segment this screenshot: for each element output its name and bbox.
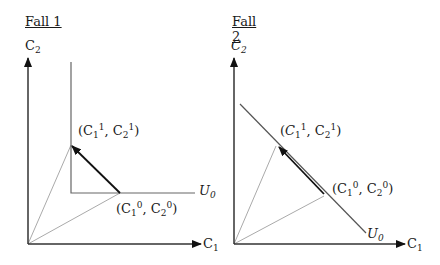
y-axis-label: C2 <box>231 38 247 55</box>
new-point-label: (C11, C21) <box>280 122 341 140</box>
curve-label: U0 <box>367 226 384 243</box>
old-point-label: (C10, C20) <box>332 180 393 198</box>
ray-to-new-point <box>234 146 276 244</box>
panel-fall-2: Fall 2 C2 C1 U0 (C11, C21) (C10, C20) <box>0 0 220 265</box>
ray-to-old-point <box>234 196 324 244</box>
shift-arrow <box>279 147 324 194</box>
x-axis-label: C1 <box>407 236 423 253</box>
